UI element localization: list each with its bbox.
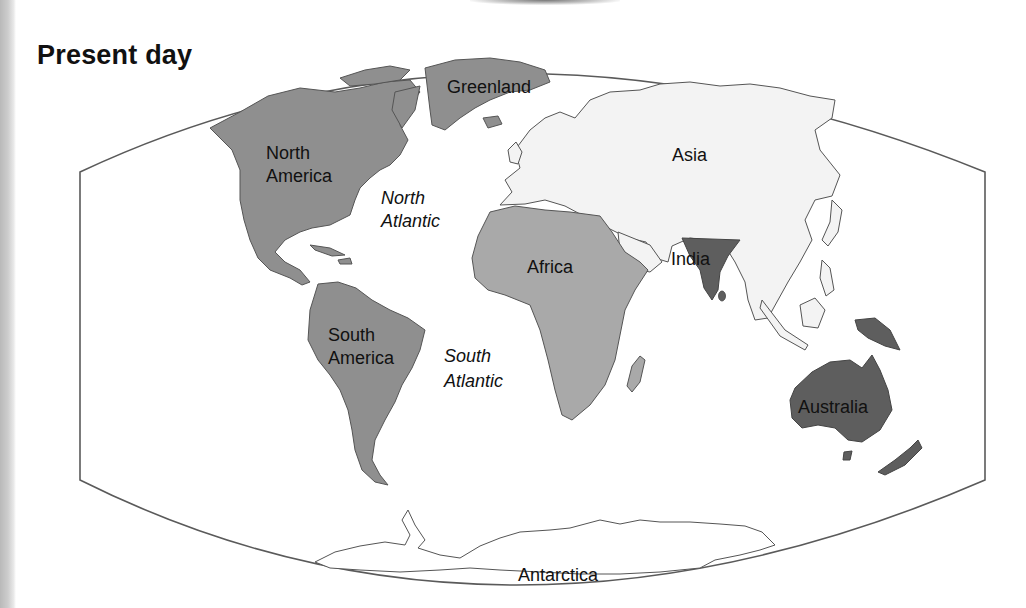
label-asia: Asia [672,144,707,166]
label-india: India [671,248,710,270]
label-africa: Africa [527,256,573,278]
label-greenland: Greenland [447,76,531,98]
label-antarctica: Antarctica [518,564,598,586]
landmass-tasmania [843,451,852,460]
label-north-america-line1: North [266,142,310,164]
label-north-atlantic-line2: Atlantic [381,210,440,232]
label-north-america-line2: America [266,165,332,187]
label-north-atlantic-line1: North [381,187,425,209]
label-south-america-line1: South [328,324,375,346]
label-south-america-line2: America [328,347,394,369]
label-australia: Australia [798,396,868,418]
label-south-atlantic-line2: Atlantic [444,370,503,392]
label-south-atlantic-line1: South [444,345,491,367]
landmass-sri-lanka [719,291,726,301]
